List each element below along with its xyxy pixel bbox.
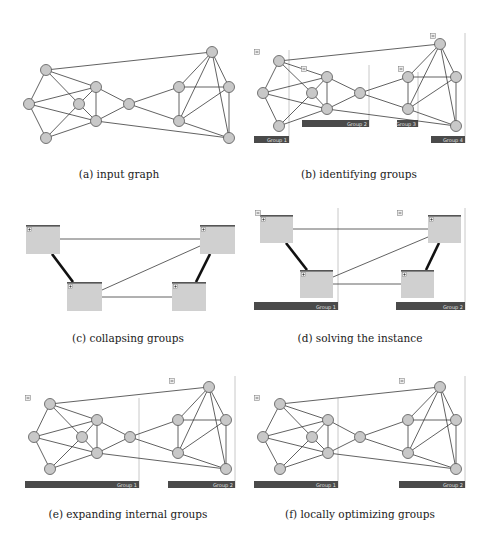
graph-edge [209,387,226,469]
group-label: Group 1 [267,137,287,144]
box-edge-thick [286,243,307,270]
graph-node[interactable] [92,448,103,459]
collapsed-group-header [26,225,60,227]
graph-edge [129,104,179,121]
graph-node[interactable] [451,121,462,132]
figure-canvas: Group 1Group 2Group 3Group 4Group 1Group… [0,0,492,540]
graph-node[interactable] [207,47,218,58]
graph-edge [179,121,229,138]
group-label: Group 2 [347,121,367,128]
caption-c: (c) collapsing groups [72,332,184,344]
graph-node[interactable] [275,464,286,475]
collapsed-group-header [200,225,235,227]
caption-b: (b) identifying groups [301,168,417,180]
graph-node[interactable] [355,432,366,443]
graph-node[interactable] [451,415,462,426]
graph-edge [29,104,96,121]
graph-node[interactable] [221,415,232,426]
group-label: Group 3 [396,121,416,128]
caption-e: (e) expanding internal groups [49,508,208,520]
graph-edge [46,70,96,87]
graph-edge [46,121,96,138]
graph-node[interactable] [307,432,318,443]
graph-edge [440,44,456,126]
graph-node[interactable] [173,415,184,426]
graph-node[interactable] [45,399,56,410]
graph-node[interactable] [174,82,185,93]
caption-f: (f) locally optimizing groups [285,508,435,520]
graph-node[interactable] [124,99,135,110]
graph-node[interactable] [403,104,414,115]
graph-edge [34,420,97,437]
graph-node[interactable] [322,72,333,83]
collapsed-group-header [401,270,434,272]
graph-edge [440,387,456,469]
graph-edge [328,453,456,469]
graph-node[interactable] [41,133,52,144]
graph-edge [279,44,440,61]
graph-edge [360,93,408,109]
graph-node[interactable] [125,432,136,443]
graph-edge [263,93,327,109]
graph-edge [46,52,212,70]
graph-edge [46,104,79,138]
graph-edge [130,420,178,437]
graph-node[interactable] [355,88,366,99]
graph-node[interactable] [451,72,462,83]
group-layer: Group 1Group 2Group 3Group 4Group 1Group… [25,33,465,489]
graph-node[interactable] [323,415,334,426]
graph-node[interactable] [24,99,35,110]
graph-node[interactable] [224,133,235,144]
graph-edge [280,387,440,404]
graph-node[interactable] [77,432,88,443]
graph-node[interactable] [322,104,333,115]
group-label: Group 1 [316,304,336,311]
graph-node[interactable] [403,415,414,426]
graph-edge [263,77,327,93]
graph-node[interactable] [258,432,269,443]
graph-node[interactable] [224,82,235,93]
graph-node[interactable] [29,432,40,443]
graph-node[interactable] [91,82,102,93]
collapsed-group-header [67,282,102,284]
group-label: Group 4 [443,137,463,144]
collapsed-group-header [172,282,206,284]
graph-edge [360,420,408,437]
graph-node[interactable] [221,464,232,475]
graph-node[interactable] [74,99,85,110]
graph-node[interactable] [204,382,215,393]
edge-layer [29,44,456,469]
graph-edge [129,87,179,104]
graph-node[interactable] [258,88,269,99]
graph-edge [29,87,96,104]
graph-node[interactable] [91,116,102,127]
graph-node[interactable] [403,72,414,83]
box-edge-thick [52,254,73,282]
graph-node[interactable] [435,39,446,50]
graph-edge [360,77,408,93]
graph-edge [130,437,178,453]
graph-node[interactable] [174,116,185,127]
graph-node[interactable] [173,448,184,459]
graph-node[interactable] [451,464,462,475]
graph-node[interactable] [92,415,103,426]
graph-node[interactable] [274,121,285,132]
graph-node[interactable] [307,88,318,99]
graph-node[interactable] [323,448,334,459]
caption-d: (d) solving the instance [298,332,423,344]
graph-node[interactable] [275,399,286,410]
graph-node[interactable] [435,382,446,393]
graph-edge [96,121,229,138]
graph-edge [408,387,440,420]
collapsed-group-header [300,270,333,272]
graph-edge [50,404,97,420]
graph-edge [408,453,456,469]
graph-node[interactable] [403,448,414,459]
graph-node[interactable] [41,65,52,76]
graph-edge [360,437,408,453]
graph-node[interactable] [274,56,285,67]
graph-edge [408,420,456,453]
graph-node[interactable] [45,464,56,475]
graph-edge [279,61,312,93]
graph-edge [263,420,328,437]
